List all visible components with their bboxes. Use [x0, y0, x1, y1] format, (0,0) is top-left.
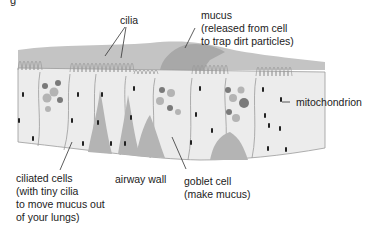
- title-fragment: g: [10, 0, 16, 6]
- epithelium-body: [18, 68, 325, 160]
- mucus-label: mucus (released from cell to trap dirt p…: [201, 9, 294, 48]
- mucus-label-line1: mucus: [201, 9, 294, 22]
- ciliated-cells-label-line1: ciliated cells: [16, 172, 105, 185]
- airway-wall-label: airway wall: [115, 173, 166, 186]
- goblet-cell-label-line1: goblet cell: [184, 175, 251, 188]
- ciliated-cells-label-line2: (with tiny cilia: [16, 185, 105, 198]
- goblet-cell-label-line2: (make mucus): [184, 188, 251, 201]
- mucus-label-line2: (released from cell: [201, 22, 294, 35]
- mucus-label-line3: to trap dirt particles): [201, 35, 294, 48]
- ciliated-cells-label-line3: to move mucus out: [16, 198, 105, 211]
- ciliated-cells-label-line4: of your lungs): [16, 211, 105, 224]
- mitochondrion-label: mitochondrion: [296, 96, 362, 109]
- cilia-label: cilia: [120, 14, 138, 27]
- ciliated-cells-label: ciliated cells (with tiny cilia to move …: [16, 172, 105, 224]
- airway-epithelium-diagram: g: [0, 0, 371, 226]
- goblet-cell-label: goblet cell (make mucus): [184, 175, 251, 201]
